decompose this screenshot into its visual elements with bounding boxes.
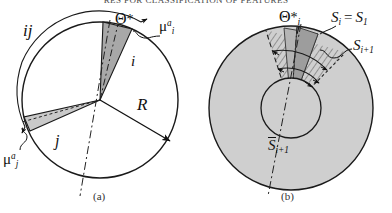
mu-i-subscript: i <box>172 26 175 36</box>
figure-drawing <box>0 0 392 213</box>
panel-b-caption: (b) <box>281 190 294 202</box>
s-glyph: S <box>331 9 339 25</box>
panel-a-label-theta-star: Θ* <box>115 11 134 27</box>
panel-b-si-leader <box>320 26 336 34</box>
panel-b-label-s-bar-i-plus-1: Si+1 <box>268 137 289 155</box>
panel-a-label-sector-j: j <box>55 133 59 149</box>
figure-container: RES FOR CLASSIFICATION OF FEATURES <box>0 0 392 213</box>
s-next-subscript: i+1 <box>361 45 375 55</box>
panel-b-label-s-i-plus-1: Si+1 <box>353 38 374 55</box>
panel-a-caption: (a) <box>93 190 105 202</box>
mu-glyph: μ <box>159 18 167 34</box>
s-bar-glyph: S <box>268 137 276 153</box>
panel-a-label-sector-i: i <box>131 54 135 69</box>
s-glyph-2: S <box>356 9 364 25</box>
panel-b-label-theta-star: Θ*i <box>279 9 300 27</box>
theta-star-mark-b: * <box>291 10 298 25</box>
theta-glyph-b: Θ <box>279 8 291 25</box>
s-subscript-1: 1 <box>363 17 368 27</box>
s-next-glyph: S <box>353 37 361 53</box>
panel-b-label-si-equals-s1: Si=S1 <box>331 10 368 27</box>
theta-glyph: Θ <box>115 10 127 27</box>
s-bar-subscript: i+1 <box>276 145 290 155</box>
mu-j-glyph: μ <box>3 151 11 167</box>
equals-sign: = <box>341 9 355 25</box>
panel-a-mu-j-leader <box>20 128 27 150</box>
panel-a-label-radius: R <box>137 96 147 113</box>
panel-a-label-ij: ij <box>23 22 32 39</box>
mu-j-subscript: j <box>16 159 19 169</box>
theta-star-subscript-b: i <box>298 16 301 27</box>
panel-a-label-mu-j: μaj <box>3 152 18 169</box>
panel-a-label-mu-i: μai <box>159 19 174 36</box>
theta-star-mark: * <box>127 12 134 27</box>
